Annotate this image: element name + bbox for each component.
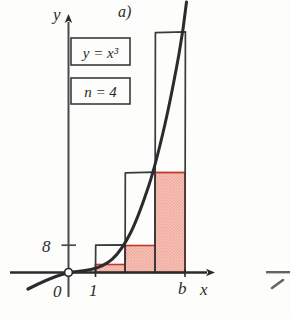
y-tick-label-8: 8 bbox=[42, 237, 51, 256]
lower-sum-bar-2 bbox=[125, 246, 155, 273]
origin-marker bbox=[65, 269, 73, 277]
y-axis-label: y bbox=[51, 5, 61, 24]
partition-box-label: n = 4 bbox=[84, 84, 117, 100]
lower-sum-bar-3 bbox=[155, 173, 185, 273]
adjacent-figure-fragment bbox=[266, 272, 290, 288]
figure-caption: a) bbox=[118, 3, 131, 21]
origin-label: 0 bbox=[53, 282, 62, 301]
riemann-sum-figure: y = x³ n = 4 y x a) 0 1 b 8 bbox=[0, 0, 290, 319]
function-box: y = x³ bbox=[71, 38, 130, 65]
function-box-label: y = x³ bbox=[81, 45, 119, 61]
x-tick-label-b: b bbox=[178, 279, 187, 298]
figure-container: y = x³ n = 4 y x a) 0 1 b 8 bbox=[0, 0, 290, 319]
partition-box: n = 4 bbox=[71, 78, 130, 104]
x-axis-label: x bbox=[199, 280, 208, 299]
lower-sum-rectangles bbox=[96, 173, 186, 273]
x-tick-label-1: 1 bbox=[89, 281, 98, 300]
